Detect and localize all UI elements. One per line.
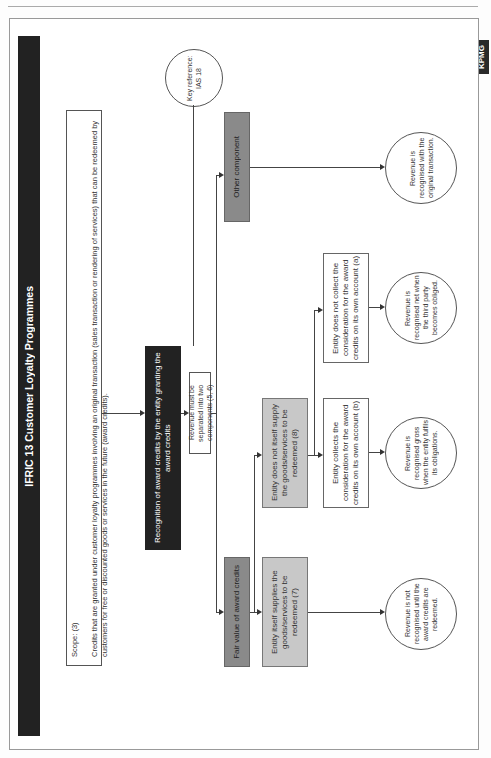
scope-label: Scope: (3) xyxy=(70,622,79,657)
connector-split-vertical xyxy=(216,175,217,613)
outcome-not-recognised-circle: Revenue is not recognised until the awar… xyxy=(385,578,457,650)
header-rule xyxy=(8,6,478,7)
arrow-icon xyxy=(380,164,385,170)
arrow-icon xyxy=(140,410,145,416)
connector-collect-vertical xyxy=(314,310,315,456)
fair-value-box: Fair value of award credits xyxy=(224,557,250,667)
arrow-icon xyxy=(219,172,224,178)
arrow-icon xyxy=(184,410,189,416)
recognition-box: Recognition of award credits by the enti… xyxy=(145,346,181,550)
other-component-box: Other component xyxy=(224,112,250,222)
arrow-icon xyxy=(318,307,323,313)
arrow-icon xyxy=(380,304,385,310)
arrow-icon xyxy=(257,452,262,458)
connector-other-original xyxy=(250,167,381,168)
connector-supply-vertical xyxy=(254,455,255,613)
key-reference-circle: Key reference: IAS 18 xyxy=(165,49,223,107)
connector-key-recognition xyxy=(193,105,194,346)
arrow-icon xyxy=(219,609,224,615)
scope-box: Scope: (3)Credits that are granted under… xyxy=(66,110,102,666)
separation-box: Revenue must be separated into two compo… xyxy=(189,372,211,454)
outcome-net-circle: Revenue is recognised net when the third… xyxy=(385,272,457,344)
arrow-icon xyxy=(380,609,385,615)
diagram-title: IFRIC 13 Customer Loyalty Programmes xyxy=(18,36,40,736)
connector-scope-recognition xyxy=(102,413,140,414)
scope-text: Credits that are granted under customer … xyxy=(90,121,109,657)
entity-not-collect-box: Entity does not collect the consideratio… xyxy=(323,253,369,363)
entity-not-supply-box: Entity does not itself supply the goods/… xyxy=(262,398,308,508)
entity-collects-box: Entity collects the consideration for th… xyxy=(323,398,369,508)
arrow-icon xyxy=(318,452,323,458)
outcome-gross-circle: Revenue is recognised gross when the ent… xyxy=(385,417,457,489)
connector-itself-notrec xyxy=(308,612,381,613)
arrow-icon xyxy=(380,449,385,455)
outcome-original-circle: Revenue is recognised with the original … xyxy=(385,132,457,204)
arrow-icon xyxy=(257,609,262,615)
entity-supplies-box: Entity itself supplies the goods/service… xyxy=(262,557,308,667)
